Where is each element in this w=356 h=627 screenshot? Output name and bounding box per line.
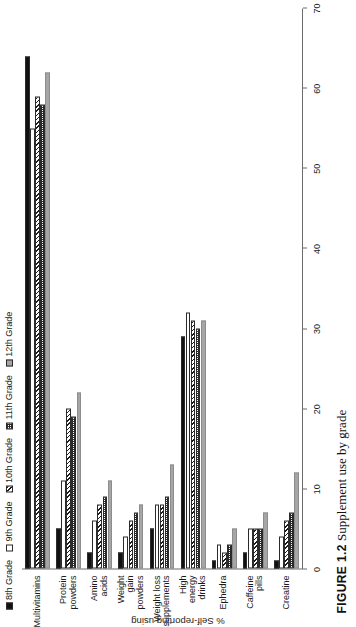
plot-area: MultivitaminsProtein powdersAmino acidsW… <box>22 8 302 569</box>
bar <box>243 552 248 568</box>
bar <box>186 312 191 568</box>
bar <box>160 504 165 568</box>
bar <box>139 504 144 568</box>
open-white-swatch <box>6 544 13 551</box>
bar <box>201 320 206 568</box>
bar <box>71 416 76 568</box>
diagonal-hatch-swatch <box>6 485 13 492</box>
legend-item: 11th Grade <box>4 375 14 429</box>
legend-item-label: 8th Grade <box>4 560 14 600</box>
category-label: Weight loss supplements <box>146 571 177 621</box>
category-label: Multivitamins <box>22 571 53 621</box>
axis-tick-mark <box>303 328 307 329</box>
bar <box>248 528 253 568</box>
bar <box>284 520 289 568</box>
bar-group <box>115 8 146 568</box>
bar <box>212 560 217 568</box>
bar <box>191 320 196 568</box>
bar-group <box>209 8 240 568</box>
bar <box>45 72 50 568</box>
value-axis-title: % Self-reporting using <box>131 616 224 627</box>
bar <box>61 480 66 568</box>
axis-tick-label: 40 <box>312 243 322 253</box>
axis-tick-label: 50 <box>312 163 322 173</box>
axis-tick-mark <box>303 247 307 248</box>
axis-tick-mark <box>303 167 307 168</box>
bar <box>263 512 268 568</box>
bar-group <box>146 8 177 568</box>
bar <box>66 408 71 568</box>
rotated-page-stage: 8th Grade9th Grade10th Grade11th Grade12… <box>0 0 356 627</box>
axis-tick-mark <box>303 7 307 8</box>
axis-tick-label: 70 <box>312 3 322 13</box>
chart-legend: 8th Grade9th Grade10th Grade11th Grade12… <box>4 311 14 609</box>
bar <box>274 560 279 568</box>
axis-tick-mark <box>303 408 307 409</box>
bar <box>129 520 134 568</box>
solid-black-swatch <box>6 602 13 609</box>
legend-item-label: 10th Grade <box>4 438 14 483</box>
bar <box>258 528 263 568</box>
bar <box>170 464 175 568</box>
bar <box>222 552 227 568</box>
bar-group <box>22 8 53 568</box>
figure-caption-text: Supplement use by grade <box>334 409 349 540</box>
bar-group <box>84 8 115 568</box>
bar-group <box>178 8 209 568</box>
category-label: Ephedra <box>209 571 240 621</box>
category-axis-labels: MultivitaminsProtein powdersAmino acidsW… <box>22 571 302 621</box>
legend-item: 12th Grade <box>4 311 14 365</box>
bar <box>232 528 237 568</box>
figure-caption-label: FIGURE 1.2 <box>335 544 349 613</box>
bar <box>123 536 128 568</box>
bar <box>35 96 40 568</box>
bar <box>227 544 232 568</box>
axis-tick-label: 0 <box>312 566 322 571</box>
bar <box>181 336 186 568</box>
axis-tick-mark <box>303 488 307 489</box>
axis-tick-mark <box>303 568 307 569</box>
bar <box>56 528 61 568</box>
category-label: Weight gain powders <box>115 571 146 621</box>
bar <box>217 544 222 568</box>
bar <box>294 472 299 568</box>
value-axis-baseline <box>302 8 303 569</box>
bar-group <box>53 8 84 568</box>
bar-groups <box>22 8 302 568</box>
bar <box>25 56 30 568</box>
bar <box>87 552 92 568</box>
figure-container: 8th Grade9th Grade10th Grade11th Grade12… <box>0 0 356 627</box>
bar <box>155 504 160 568</box>
bar-group <box>271 8 302 568</box>
bar <box>289 512 294 568</box>
category-label: Amino acids <box>84 571 115 621</box>
axis-tick-label: 10 <box>312 484 322 494</box>
bar <box>150 528 155 568</box>
legend-item: 8th Grade <box>4 560 14 609</box>
bar <box>134 512 139 568</box>
axis-tick-label: 30 <box>312 324 322 334</box>
legend-item-label: 9th Grade <box>4 501 14 541</box>
legend-item: 10th Grade <box>4 438 14 492</box>
category-label: Creatine <box>271 571 302 621</box>
dotted-grid-swatch <box>6 422 13 429</box>
bar-group <box>240 8 271 568</box>
axis-tick-label: 20 <box>312 404 322 414</box>
bar <box>92 520 97 568</box>
legend-item-label: 11th Grade <box>4 375 14 419</box>
legend-item: 9th Grade <box>4 501 14 550</box>
bar <box>118 552 123 568</box>
solid-grey-swatch <box>6 359 13 366</box>
bar <box>165 496 170 568</box>
bar <box>253 528 258 568</box>
axis-tick-label: 60 <box>312 83 322 93</box>
bar <box>30 128 35 568</box>
bar <box>108 480 113 568</box>
category-label: Caffeine pills <box>240 571 271 621</box>
bar <box>103 496 108 568</box>
bar <box>77 392 82 568</box>
bar <box>279 536 284 568</box>
figure-caption: FIGURE 1.2 Supplement use by grade <box>334 409 350 613</box>
bar <box>97 504 102 568</box>
category-label: High energy drinks <box>178 571 209 621</box>
